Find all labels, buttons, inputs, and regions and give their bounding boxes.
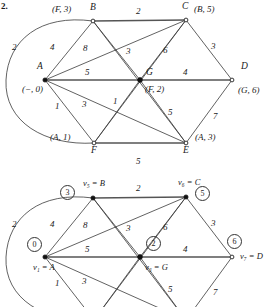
vertex-label-v6: v₆ = C (178, 178, 200, 187)
lower-graph-edges (0, 0, 278, 307)
edge-weight-v3-v7: 4 (183, 245, 188, 254)
vertex-label-v7: v₇ = D (240, 252, 263, 261)
edge-weight-v5-v6: 2 (136, 184, 141, 193)
distance-badge-v7: 6 (227, 234, 242, 249)
lower-edge-group (6, 197, 232, 307)
vertex-v5[interactable] (91, 196, 95, 200)
edge-weight-v3-e: 5 (168, 285, 173, 294)
distance-badge-v6: 5 (195, 186, 210, 201)
lower-vertex-group (43, 195, 234, 260)
edge-v6-v7 (186, 197, 232, 257)
distance-badge-v1: 0 (27, 237, 42, 252)
edge-weight-v1-v3: 5 (85, 245, 90, 254)
vertex-label-v3: v₃ = G (145, 263, 168, 272)
vertex-v1[interactable] (43, 255, 47, 259)
vertex-v7[interactable] (230, 255, 234, 259)
edge-v5-v6 (93, 197, 186, 198)
edge-weight-v1-v5: 4 (50, 220, 55, 229)
edge-weight-v6-v7: 3 (211, 219, 216, 228)
edge-weight-v1-v5-curved: 2 (12, 220, 17, 229)
vertex-label-v5: v₅ = B (83, 179, 105, 188)
distance-badge-v5: 3 (60, 185, 75, 200)
edge-weight-v7-e: 7 (213, 288, 218, 297)
edge-v7-e (186, 257, 232, 307)
vertex-label-v1: v₁ = A (33, 263, 55, 272)
edge-weight-v1-v6: 8 (83, 221, 88, 230)
edge-weight-v6-v3: 6 (163, 223, 168, 232)
distance-badge-v3: 2 (146, 236, 161, 251)
edge-weight-v1-f: 1 (55, 279, 60, 288)
figure-container: 2. (0, 0, 278, 307)
edge-weight-v5-v3: 3 (126, 224, 131, 233)
vertex-v3[interactable] (138, 255, 143, 260)
vertex-v6[interactable] (184, 195, 188, 199)
edge-weight-v1-e: 3 (82, 277, 87, 286)
